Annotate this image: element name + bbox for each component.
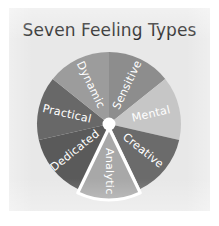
figure-panel: Seven Feeling Types SensitiveMentalCreat… bbox=[9, 8, 210, 211]
pie-slice-label: Analytic bbox=[103, 148, 116, 195]
pie-chart: SensitiveMentalCreativeAnalyticDedicated… bbox=[9, 8, 210, 211]
pie-chart-svg: SensitiveMentalCreativeAnalyticDedicated… bbox=[9, 8, 210, 211]
pie-center-hub bbox=[103, 118, 116, 131]
screenshot-root: Seven Feeling Types SensitiveMentalCreat… bbox=[0, 0, 219, 226]
